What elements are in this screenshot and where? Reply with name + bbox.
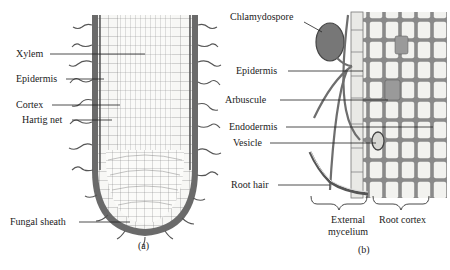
label-root-cortex: Root cortex <box>379 214 426 226</box>
label-hartig-net: Hartig net <box>22 114 62 126</box>
chlamydospore-shape <box>316 23 344 61</box>
label-vesicle: Vesicle <box>233 137 262 149</box>
label-cortex: Cortex <box>16 99 43 111</box>
panel-b-sublabel: (b) <box>358 244 370 255</box>
arbuscule-2 <box>385 80 400 100</box>
figure: Xylem Epidermis Cortex Hartig net Fungal… <box>0 0 450 270</box>
panel-a-illustration <box>0 0 450 270</box>
arbuscule-1 <box>395 36 408 54</box>
label-root-hair: Root hair <box>231 179 269 191</box>
panel-a-sublabel: (a) <box>138 240 149 251</box>
label-xylem: Xylem <box>16 48 43 60</box>
caption-cutoff <box>0 264 450 270</box>
vesicle-shape <box>372 132 384 150</box>
label-epidermis-b: Epidermis <box>236 65 277 77</box>
label-external-mycelium-line1: External <box>318 214 378 226</box>
root-cortex-brace <box>373 196 429 210</box>
label-fungal-sheath: Fungal sheath <box>10 216 66 228</box>
label-arbuscule: Arbuscule <box>225 94 266 106</box>
label-epidermis-a: Epidermis <box>16 73 57 85</box>
label-external-mycelium-line2: mycelium <box>318 226 378 238</box>
label-endodermis: Endodermis <box>229 121 277 133</box>
label-chlamydospore: Chlamydospore <box>230 11 293 23</box>
label-external-mycelium: External mycelium <box>318 214 378 238</box>
